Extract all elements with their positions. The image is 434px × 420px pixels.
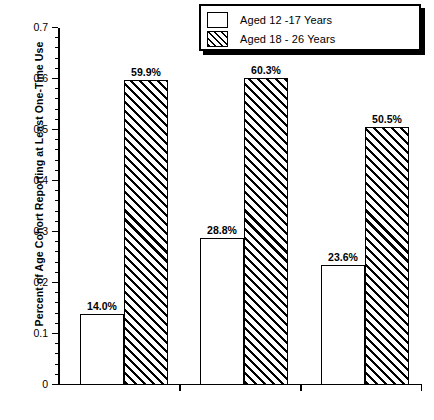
y-minor-tick: [55, 262, 59, 263]
y-minor-tick: [55, 353, 59, 354]
y-tick-0: 0: [52, 384, 58, 386]
bar-value-label: 50.5%: [372, 113, 402, 125]
y-tick-0.5: 0.5: [52, 129, 58, 131]
x-tick-separator: [421, 385, 423, 391]
bar-value-label: 60.3%: [251, 64, 281, 76]
bar-1955-61-aged-12-17: 14.0%: [80, 314, 124, 385]
y-minor-tick: [55, 200, 59, 201]
y-minor-tick: [55, 98, 59, 99]
bar-value-label: 59.9%: [131, 66, 161, 78]
y-minor-tick: [55, 88, 59, 89]
plot-area: 0 0.1 0.2 0.3 0.4 0.5 0.6 0.7: [58, 28, 422, 385]
y-minor-tick: [55, 323, 59, 324]
y-minor-tick: [55, 313, 59, 314]
y-minor-tick: [55, 149, 59, 150]
white-square-icon: [207, 12, 228, 28]
y-minor-tick: [55, 251, 59, 252]
y-minor-tick: [55, 221, 59, 222]
y-minor-tick: [55, 211, 59, 212]
legend-label: Aged 12 -17 Years: [240, 14, 332, 26]
y-minor-tick: [55, 109, 59, 110]
y-minor-tick: [55, 190, 59, 191]
bar-value-label: 14.0%: [87, 300, 117, 312]
x-tick-separator: [179, 385, 181, 391]
bar-value-label: 23.6%: [328, 251, 358, 263]
y-minor-tick: [55, 364, 59, 365]
chart-figure: Aged 12 -17 Years Aged 18 - 26 Years Per…: [0, 0, 434, 420]
y-tick-0.6: 0.6: [52, 78, 58, 80]
y-minor-tick: [55, 241, 59, 242]
y-minor-tick: [55, 58, 59, 59]
y-minor-tick: [55, 139, 59, 140]
bar-1955-61-aged-18-26: 59.9%: [124, 80, 168, 386]
y-minor-tick: [55, 37, 59, 38]
y-minor-tick: [55, 343, 59, 344]
y-minor-tick: [55, 170, 59, 171]
y-minor-tick: [55, 302, 59, 303]
y-axis-line: [58, 28, 60, 385]
y-tick-0.4: 0.4: [52, 180, 58, 182]
y-tick-0.7: 0.7: [52, 27, 58, 29]
y-minor-tick: [55, 68, 59, 69]
y-tick-0.1: 0.1: [52, 333, 58, 335]
y-minor-tick: [55, 160, 59, 161]
y-tick-0.3: 0.3: [52, 231, 58, 233]
y-minor-tick: [55, 119, 59, 120]
y-tick-0.2: 0.2: [52, 282, 58, 284]
bar-1968-73-aged-12-17: 23.6%: [321, 265, 365, 385]
bar-value-label: 28.8%: [207, 224, 237, 236]
legend-item-aged-12-17: Aged 12 -17 Years: [207, 10, 413, 29]
bar-1962-67-aged-18-26: 60.3%: [244, 78, 288, 386]
bar-1968-73-aged-18-26: 50.5%: [365, 127, 409, 385]
y-minor-tick: [55, 272, 59, 273]
y-minor-tick: [55, 374, 59, 375]
y-minor-tick: [55, 47, 59, 48]
y-minor-tick: [55, 292, 59, 293]
x-tick-separator: [300, 385, 302, 391]
bar-1962-67-aged-12-17: 28.8%: [200, 238, 244, 385]
